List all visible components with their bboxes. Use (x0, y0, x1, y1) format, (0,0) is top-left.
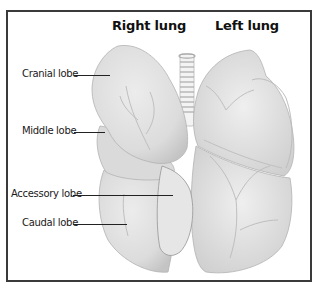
heading-right-lung: Right lung (112, 18, 186, 33)
lungs-illustration (0, 0, 316, 286)
leader-caudal-lobe (73, 224, 127, 225)
label-middle-lobe: Middle lobe (22, 125, 76, 136)
leader-cranial-lobe (74, 75, 110, 76)
label-cranial-lobe: Cranial lobe (22, 68, 78, 79)
label-accessory-lobe: Accessory lobe (11, 188, 82, 199)
leader-accessory-lobe (73, 195, 173, 196)
accessory-lobe (157, 166, 193, 255)
leader-middle-lobe (74, 132, 105, 133)
heading-left-lung: Left lung (215, 18, 279, 33)
label-caudal-lobe: Caudal lobe (22, 217, 78, 228)
